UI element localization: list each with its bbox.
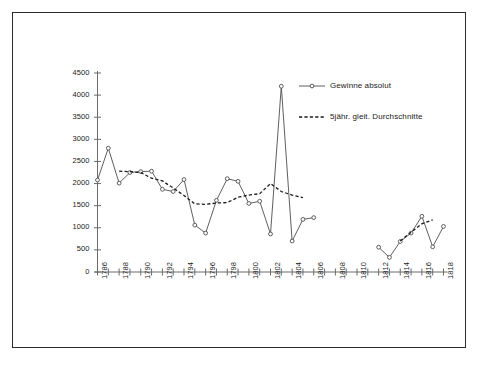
data-point-marker <box>215 198 219 202</box>
data-point-marker <box>247 202 251 206</box>
y-axis-tick-label: 1500 <box>56 201 90 209</box>
data-point-marker <box>269 232 273 236</box>
y-axis-tick-label: 500 <box>56 245 90 253</box>
data-point-marker <box>290 239 294 243</box>
data-point-marker <box>160 187 164 191</box>
x-axis-tick-label: 1810 <box>360 262 368 279</box>
x-axis-tick-label: 1818 <box>447 262 455 279</box>
series-line-absolute <box>379 216 444 257</box>
y-axis-tick-label: 4500 <box>56 69 90 77</box>
x-axis-tick-label: 1816 <box>425 262 433 279</box>
data-point-marker <box>171 190 175 194</box>
data-point-marker <box>301 217 305 221</box>
series-line-moving-average <box>400 220 432 241</box>
data-point-marker <box>442 225 446 229</box>
x-axis-tick-label: 1804 <box>295 262 303 279</box>
y-axis-tick-label: 0 <box>56 268 90 276</box>
data-point-marker <box>312 216 316 220</box>
data-point-marker <box>193 223 197 227</box>
x-axis-tick-label: 1808 <box>339 262 347 279</box>
y-axis-tick-label: 4000 <box>56 91 90 99</box>
x-axis-tick-label: 1806 <box>317 262 325 279</box>
data-point-marker <box>106 146 110 150</box>
y-axis-tick-label: 2500 <box>56 157 90 165</box>
y-axis-tick-label: 1000 <box>56 223 90 231</box>
data-point-marker <box>117 181 121 185</box>
y-axis-tick-label: 3500 <box>56 113 90 121</box>
chart-figure: 050010001500200025003000350040004500 178… <box>0 0 480 365</box>
x-axis-tick-label: 1790 <box>144 262 152 279</box>
data-point-marker <box>377 245 381 249</box>
data-point-marker <box>236 179 240 183</box>
data-point-marker <box>258 199 262 203</box>
x-axis-tick-label: 1792 <box>166 262 174 279</box>
x-axis-tick-label: 1800 <box>252 262 260 279</box>
data-point-marker <box>431 245 435 249</box>
x-axis-tick-label: 1794 <box>187 262 195 279</box>
x-axis-tick-label: 1812 <box>382 262 390 279</box>
x-axis-tick-label: 1786 <box>101 262 109 279</box>
data-point-marker <box>150 169 154 173</box>
data-point-marker <box>96 178 100 182</box>
series-line-absolute <box>98 86 314 241</box>
data-point-marker <box>279 84 283 88</box>
x-axis-tick-label: 1814 <box>403 262 411 279</box>
series-line-moving-average <box>119 171 303 204</box>
data-point-marker <box>420 214 424 218</box>
y-axis-tick-label: 2000 <box>56 179 90 187</box>
data-point-marker <box>204 231 208 235</box>
data-point-marker <box>388 256 392 260</box>
x-axis-tick-label: 1802 <box>274 262 282 279</box>
x-axis-tick-label: 1796 <box>209 262 217 279</box>
legend-item-label: Gewinne absolut <box>330 81 391 90</box>
data-point-marker <box>182 178 186 182</box>
data-point-marker <box>225 177 229 181</box>
x-axis-tick-label: 1798 <box>230 262 238 279</box>
y-axis-tick-label: 3000 <box>56 135 90 143</box>
x-axis-tick-label: 1788 <box>122 262 130 279</box>
legend-item-label: 5jähr. gleit. Durchschnitte <box>330 112 423 121</box>
